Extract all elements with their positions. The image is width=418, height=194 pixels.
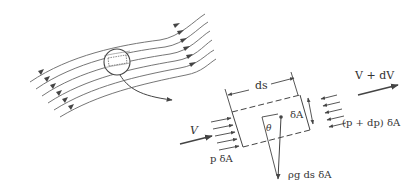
- zoom-pointer-arrow: [120, 75, 172, 100]
- streamline-element-diagram: ds δA V V + dV θ p δA (p + dp) δA ρg ds …: [0, 0, 418, 194]
- dA-dimension: [308, 98, 313, 124]
- velocity-in-label: V: [190, 124, 199, 137]
- velocity-in-arrow: [180, 136, 212, 144]
- weight-arrow: [278, 117, 281, 179]
- fluid-element: [232, 95, 310, 147]
- magnifier-circle: [104, 49, 130, 75]
- p-in-label: p δA: [210, 153, 234, 164]
- streamline-arrows-left: [38, 69, 74, 110]
- ds-label: ds: [255, 79, 268, 92]
- pressure-arrows-left: [211, 118, 239, 150]
- theta-label: θ: [266, 123, 272, 133]
- dA-label: δA: [290, 109, 304, 120]
- weight-label: ρg ds δA: [288, 169, 332, 180]
- velocity-out-arrow: [358, 85, 398, 95]
- ds-dimension: [225, 72, 298, 112]
- p-out-label: (p + dp) δA: [342, 117, 401, 128]
- velocity-out-label: V + dV: [354, 69, 395, 82]
